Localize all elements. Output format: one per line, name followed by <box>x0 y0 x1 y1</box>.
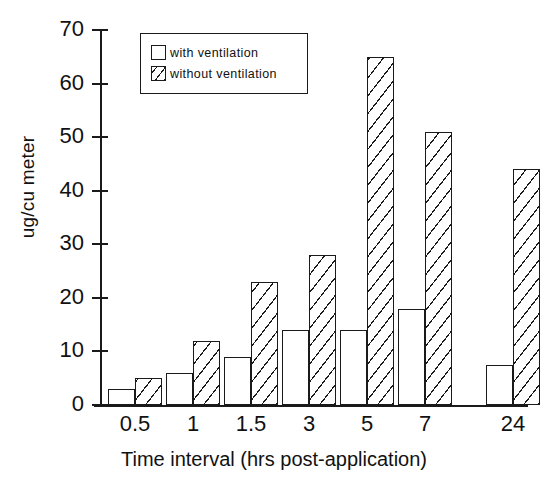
bar <box>282 330 309 405</box>
legend-item-without-ventilation: without ventilation <box>151 63 299 84</box>
bar <box>135 378 162 405</box>
y-axis-tick-label: 50 <box>38 125 84 147</box>
y-axis-tick-label: 60 <box>38 72 84 94</box>
x-axis-tick-label: 5 <box>361 412 373 436</box>
x-axis-line <box>94 405 528 407</box>
bar <box>309 255 336 405</box>
x-axis-tick-label: 7 <box>419 412 431 436</box>
empty-box-icon <box>151 45 166 60</box>
legend-label-without-ventilation: without ventilation <box>170 67 277 81</box>
y-axis-tick-label: 30 <box>38 232 84 254</box>
x-axis-tick-label: 0.5 <box>120 412 151 436</box>
bar <box>367 57 394 405</box>
y-axis-tick-label: 10 <box>38 339 84 361</box>
bar <box>224 357 251 405</box>
bar <box>108 389 135 405</box>
x-axis-title: Time interval (hrs post-application) <box>0 448 548 471</box>
y-axis-tick-label: 40 <box>38 179 84 201</box>
legend-item-with-ventilation: with ventilation <box>151 42 299 63</box>
x-axis-tick-label: 3 <box>303 412 315 436</box>
bar-chart-figure: ug/cu meter 010203040506070 0.511.535724… <box>0 0 548 488</box>
y-axis-tick-label: 20 <box>38 286 84 308</box>
bar <box>425 132 452 405</box>
x-axis-tick-label: 1 <box>187 412 199 436</box>
hatched-box-icon <box>151 66 166 81</box>
y-axis-tick-label: 0 <box>38 393 84 415</box>
bar <box>486 365 513 405</box>
chart-legend: with ventilation without ventilation <box>140 33 308 94</box>
bar <box>513 169 540 405</box>
bar <box>193 341 220 405</box>
y-axis-title: ug/cu meter <box>17 87 39 287</box>
legend-label-with-ventilation: with ventilation <box>170 46 258 60</box>
bar <box>251 282 278 405</box>
x-axis-tick-label: 24 <box>501 412 525 436</box>
bar <box>340 330 367 405</box>
bar <box>166 373 193 405</box>
x-axis-tick-label: 1.5 <box>236 412 267 436</box>
bar <box>398 309 425 405</box>
y-axis-tick-label: 70 <box>38 18 84 40</box>
